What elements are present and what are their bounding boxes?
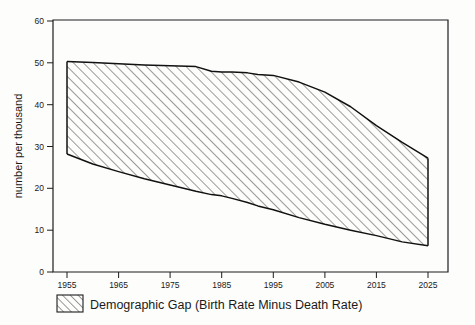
chart-canvas: 60 50 40 30 20 10 0 number per thousand … bbox=[0, 0, 475, 325]
gap-area-hatched bbox=[67, 62, 428, 246]
y-tick-label-0: 0 bbox=[39, 267, 44, 277]
x-tick-label-1965: 1965 bbox=[109, 280, 128, 290]
x-tick-label-2015: 2015 bbox=[367, 280, 386, 290]
y-tick-label-20: 20 bbox=[35, 183, 45, 193]
y-axis-tick-labels: 60 50 40 30 20 10 0 bbox=[35, 16, 45, 277]
legend-entry-label: Demographic Gap (Birth Rate Minus Death … bbox=[90, 298, 362, 312]
x-tick-label-2005: 2005 bbox=[315, 280, 334, 290]
y-tick-label-50: 50 bbox=[35, 58, 45, 68]
x-tick-label-1955: 1955 bbox=[58, 280, 77, 290]
demographic-gap-chart-figure: 60 50 40 30 20 10 0 number per thousand … bbox=[0, 0, 475, 325]
y-tick-label-40: 40 bbox=[35, 100, 45, 110]
y-tick-label-30: 30 bbox=[35, 142, 45, 152]
x-tick-label-1985: 1985 bbox=[212, 280, 231, 290]
legend-hatched-swatch-icon bbox=[57, 295, 83, 312]
y-tick-label-60: 60 bbox=[35, 16, 45, 26]
x-axis-tick-labels: 1955 1965 1975 1985 1995 2005 2015 2025 bbox=[58, 280, 438, 290]
x-axis-ticks bbox=[67, 272, 428, 278]
y-axis-title-group: number per thousand bbox=[12, 94, 24, 199]
y-tick-label-10: 10 bbox=[35, 225, 45, 235]
x-tick-label-2025: 2025 bbox=[419, 280, 438, 290]
chart-legend: Demographic Gap (Birth Rate Minus Death … bbox=[57, 295, 362, 312]
demographic-gap-band bbox=[67, 62, 428, 246]
x-tick-label-1975: 1975 bbox=[161, 280, 180, 290]
x-tick-label-1995: 1995 bbox=[264, 280, 283, 290]
y-axis-ticks bbox=[47, 21, 53, 272]
y-axis-title: number per thousand bbox=[12, 94, 24, 199]
